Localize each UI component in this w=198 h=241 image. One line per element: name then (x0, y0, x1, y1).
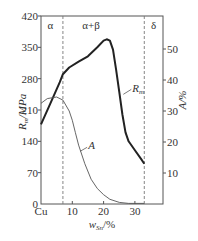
y-tick-label: 280 (22, 73, 39, 85)
y2-tick-label: 20 (167, 136, 179, 148)
x-tick-label: Cu (35, 205, 48, 217)
phase-label: δ (151, 19, 156, 31)
y-axis-label: Rm/MPa (16, 93, 30, 131)
y-tick-label: 70 (27, 167, 39, 179)
plot-border (41, 16, 163, 204)
y2-axis-label: A/% (176, 91, 188, 111)
x-tick-label: 10 (67, 205, 79, 217)
series-lines: RmA (41, 39, 144, 203)
phase-label: α (48, 19, 54, 31)
rm-leader-line (123, 89, 131, 94)
a-annotation: A (87, 139, 95, 151)
y-tick-label: 420 (22, 10, 39, 22)
phase-label: α+β (82, 19, 100, 31)
x-axis-label: wSn/% (89, 218, 116, 232)
y2-tick-label: 10 (167, 167, 179, 179)
y2-tick-label: 40 (167, 74, 179, 86)
y-tick-label: 140 (22, 135, 39, 147)
plot-frame (41, 16, 163, 204)
phase-boundaries: αα+βδ (48, 16, 157, 204)
x-tick-label: 30 (129, 205, 141, 217)
chart: αα+βδ RmA 0701402102803504201020304050Cu… (0, 0, 198, 241)
x-tick-label: 20 (98, 205, 110, 217)
rm-annotation: Rm (131, 82, 144, 96)
y2-tick-label: 50 (167, 43, 179, 55)
y-tick-label: 350 (22, 41, 39, 53)
a-leader-line (80, 147, 87, 151)
